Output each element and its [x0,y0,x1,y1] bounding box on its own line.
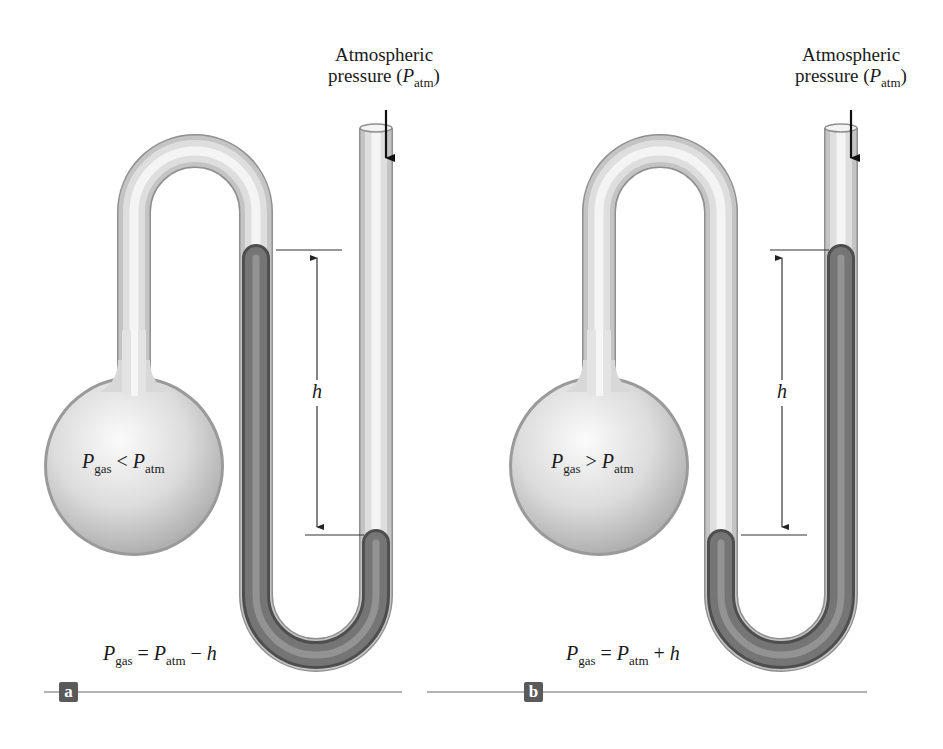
atm-suffix: ) [901,65,907,86]
rel-lhs-sub: gas [563,461,580,476]
atm-prefix: pressure ( [328,65,402,86]
rel-rhs: P [133,450,145,472]
bulb-relation-a: Pgas < Patm [82,450,165,477]
atm-sub: atm [414,75,434,90]
eq-sign: = [601,642,612,664]
height-label-b: h [776,380,788,403]
atm-label-line1: Atmospheric [771,44,931,65]
height-label-a: h [311,380,323,403]
atmospheric-pressure-label-b: Atmospheric pressure (Patm) [771,44,931,93]
atm-P: P [869,65,881,86]
rel-op: > [586,450,597,472]
rel-lhs: P [82,450,94,472]
rel-rhs: P [602,450,614,472]
rel-rhs-sub: atm [145,461,165,476]
rel-rhs-sub: atm [614,461,634,476]
eq-rhs: P [617,642,629,664]
eq-rhs-sub: atm [629,653,649,668]
equation-b: Pgas = Patm + h [566,642,680,669]
eq-term: h [207,642,217,664]
bulb-relation-b: Pgas > Patm [551,450,634,477]
atm-label-line2: pressure (Patm) [771,65,931,93]
atm-sub: atm [881,75,901,90]
eq-op: − [191,642,202,664]
panel-badge-b: b [524,682,543,702]
eq-rhs-sub: atm [166,653,186,668]
atm-prefix: pressure ( [795,65,869,86]
equation-a: Pgas = Patm − h [103,642,217,669]
eq-rhs: P [154,642,166,664]
eq-lhs-sub: gas [115,653,132,668]
rel-lhs-sub: gas [94,461,111,476]
atm-P: P [402,65,414,86]
panel-b-manometer [427,110,867,692]
eq-lhs: P [566,642,578,664]
eq-op: + [654,642,665,664]
eq-sign: = [138,642,149,664]
atmospheric-pressure-label-a: Atmospheric pressure (Patm) [304,44,464,93]
atm-suffix: ) [434,65,440,86]
panel-a-manometer [44,110,402,692]
rel-lhs: P [551,450,563,472]
atm-label-line1: Atmospheric [304,44,464,65]
eq-lhs-sub: gas [578,653,595,668]
manometer-diagram [0,0,943,749]
panel-badge-a: a [59,682,78,702]
atm-label-line2: pressure (Patm) [304,65,464,93]
eq-lhs: P [103,642,115,664]
eq-term: h [670,642,680,664]
rel-op: < [117,450,128,472]
